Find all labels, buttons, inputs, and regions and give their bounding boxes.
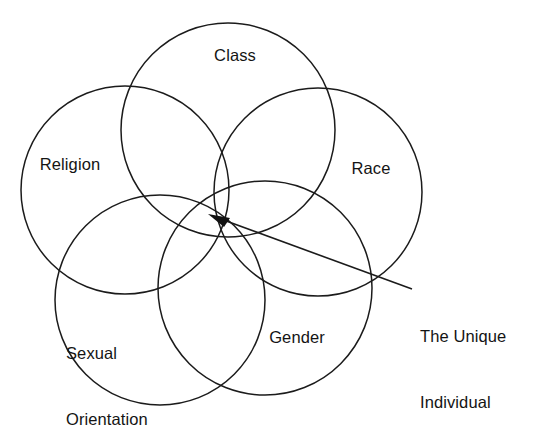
circle-race[interactable] (214, 88, 422, 296)
callout-label-line2: Individual (420, 391, 506, 413)
callout-label-line1: The Unique (420, 325, 506, 347)
circle-religion[interactable] (21, 86, 229, 294)
callout-label-the-unique-individual: The Unique Individual (420, 281, 506, 426)
label-sexual-orientation-line1: Sexual (66, 342, 148, 364)
label-sexual-orientation-line2: Orientation (66, 408, 148, 426)
callout-leader-line (218, 218, 412, 289)
label-class: Class (214, 44, 256, 66)
venn-diagram: Class Religion Race Gender Sexual Orient… (0, 0, 549, 426)
label-religion: Religion (40, 153, 100, 175)
label-race: Race (352, 157, 391, 179)
label-sexual-orientation: Sexual Orientation (66, 298, 148, 426)
label-gender: Gender (269, 326, 325, 348)
